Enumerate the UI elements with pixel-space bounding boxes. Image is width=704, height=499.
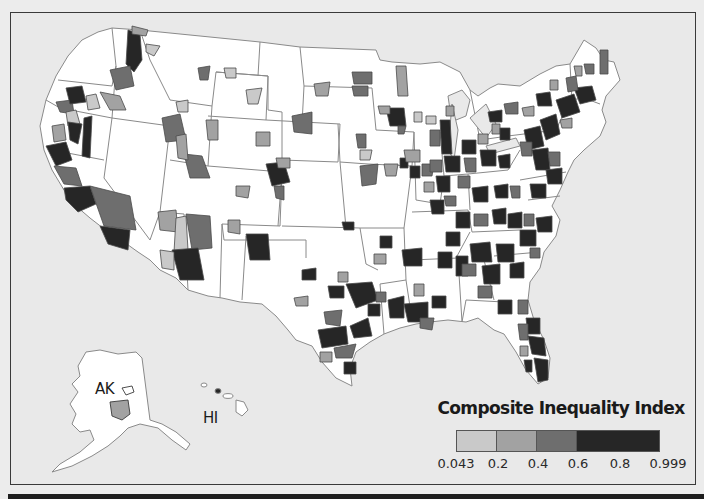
legend-ticks: 0.043 0.2 0.4 0.6 0.8 0.999 [430, 456, 692, 472]
legend-tick: 0.999 [649, 456, 686, 471]
legend-tick: 0.4 [528, 456, 549, 471]
legend-color-bar [456, 430, 660, 452]
legend-tick: 0.8 [610, 456, 631, 471]
legend-swatch-class-1 [457, 431, 497, 451]
legend-tick: 0.6 [568, 456, 589, 471]
legend-swatch-class-2 [497, 431, 537, 451]
legend-swatch-class-4 [577, 431, 659, 451]
legend-tick: 0.2 [488, 456, 509, 471]
legend: Composite Inequality Index 0.043 0.2 0.4… [430, 398, 692, 418]
legend-title: Composite Inequality Index [430, 398, 692, 418]
hawaii-label: HI [203, 409, 218, 427]
legend-tick: 0.043 [437, 456, 474, 471]
legend-swatch-class-3 [537, 431, 577, 451]
choropleth-map [0, 0, 704, 499]
alaska-label: AK [95, 380, 114, 398]
bottom-rule [8, 494, 704, 499]
